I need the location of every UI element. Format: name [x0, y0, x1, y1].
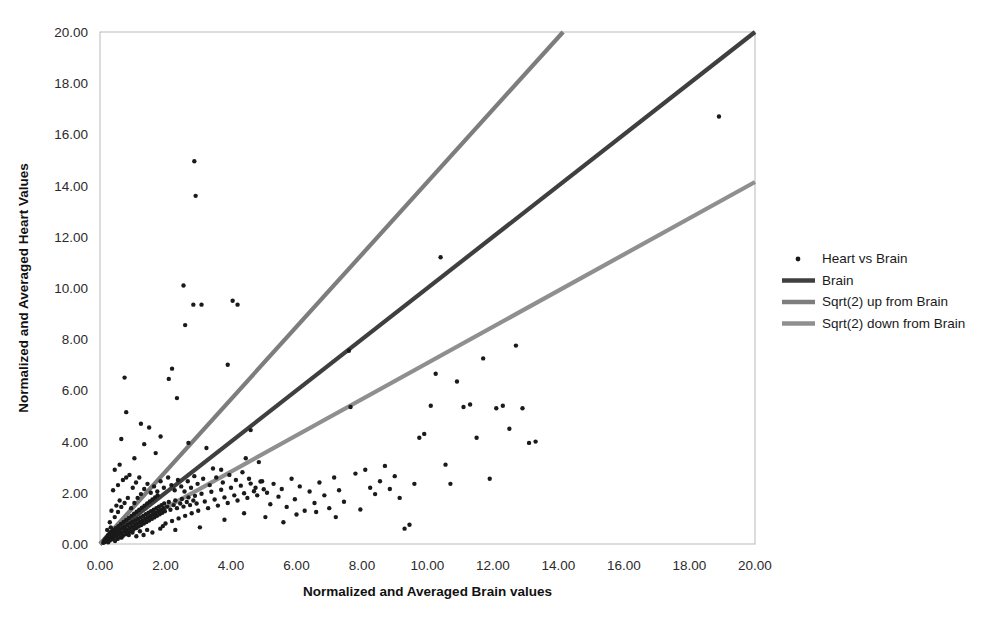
data-point: [393, 474, 397, 478]
data-point: [138, 529, 142, 533]
data-point: [195, 482, 199, 486]
data-point: [152, 484, 156, 488]
data-point: [137, 475, 141, 479]
data-point: [240, 470, 244, 474]
data-point: [253, 485, 257, 489]
data-point: [167, 500, 171, 504]
data-point: [132, 501, 136, 505]
data-point: [234, 478, 238, 482]
data-point: [255, 493, 259, 497]
data-point: [235, 302, 239, 306]
data-point: [189, 485, 193, 489]
data-point: [191, 498, 195, 502]
data-point: [113, 515, 117, 519]
data-point: [239, 483, 243, 487]
data-point: [417, 436, 421, 440]
data-point: [322, 493, 326, 497]
data-point: [474, 436, 478, 440]
data-point: [293, 497, 297, 501]
data-point: [314, 510, 318, 514]
data-point: [135, 496, 139, 500]
data-point: [122, 375, 126, 379]
data-point: [190, 511, 194, 515]
data-point: [337, 488, 341, 492]
legend-item-label[interactable]: Sqrt(2) down from Brain: [822, 316, 965, 331]
legend-item-label[interactable]: Brain: [822, 273, 854, 288]
x-tick-label: 12.00: [476, 558, 510, 573]
data-point: [203, 499, 207, 503]
chart-background: [0, 0, 1000, 625]
y-tick-label: 16.00: [54, 127, 88, 142]
data-point: [221, 480, 225, 484]
data-point: [196, 509, 200, 513]
y-tick-label: 6.00: [62, 383, 88, 398]
data-point: [235, 498, 239, 502]
legend-item-label[interactable]: Heart vs Brain: [822, 251, 908, 266]
data-point: [193, 494, 197, 498]
data-point: [109, 525, 113, 529]
data-point: [127, 533, 131, 537]
data-point: [214, 475, 218, 479]
data-point: [429, 404, 433, 408]
data-point: [192, 159, 196, 163]
data-point: [166, 475, 170, 479]
data-point: [209, 490, 213, 494]
data-point: [248, 428, 252, 432]
x-tick-label: 10.00: [411, 558, 445, 573]
data-point: [281, 520, 285, 524]
data-point: [124, 475, 128, 479]
data-point: [175, 506, 179, 510]
data-point: [139, 421, 143, 425]
data-point: [134, 480, 138, 484]
data-point: [327, 506, 331, 510]
data-point: [199, 302, 203, 306]
data-point: [170, 519, 174, 523]
data-point: [402, 526, 406, 530]
data-point: [116, 510, 120, 514]
data-point: [172, 488, 176, 492]
data-point: [145, 528, 149, 532]
data-point: [407, 523, 411, 527]
data-point: [141, 533, 145, 537]
data-point: [122, 501, 126, 505]
y-tick-label: 20.00: [54, 25, 88, 40]
data-point: [162, 485, 166, 489]
data-point: [455, 379, 459, 383]
data-point: [130, 530, 134, 534]
x-tick-label: 14.00: [542, 558, 576, 573]
y-tick-label: 14.00: [54, 179, 88, 194]
data-point: [222, 495, 226, 499]
data-point: [178, 501, 182, 505]
data-point: [124, 410, 128, 414]
data-point: [219, 488, 223, 492]
data-point: [199, 492, 203, 496]
data-point: [373, 492, 377, 496]
data-point: [193, 194, 197, 198]
data-point: [247, 477, 251, 481]
data-point: [173, 498, 177, 502]
data-point: [186, 479, 190, 483]
data-point: [353, 471, 357, 475]
data-point: [368, 485, 372, 489]
data-point: [260, 479, 264, 483]
data-point: [244, 456, 248, 460]
data-point: [342, 500, 346, 504]
legend-marker-dot: [796, 257, 801, 262]
data-point: [171, 503, 175, 507]
data-point: [153, 451, 157, 455]
legend-item-label[interactable]: Sqrt(2) up from Brain: [822, 294, 948, 309]
data-point: [448, 482, 452, 486]
data-point: [378, 479, 382, 483]
x-tick-label: 0.00: [87, 558, 113, 573]
data-point: [194, 501, 198, 505]
data-point: [134, 534, 138, 538]
data-point: [298, 484, 302, 488]
data-point: [507, 427, 511, 431]
data-point: [263, 515, 267, 519]
data-point: [181, 504, 185, 508]
data-point: [276, 494, 280, 498]
data-point: [347, 349, 351, 353]
data-point: [114, 503, 118, 507]
data-point: [198, 525, 202, 529]
data-point: [271, 482, 275, 486]
